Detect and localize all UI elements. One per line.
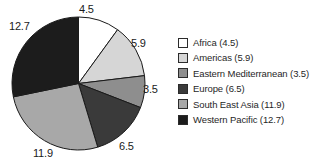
data-label-europe: 6.5 — [119, 141, 134, 152]
legend-item-south-east-asia[interactable]: South East Asia (11.9) — [178, 97, 331, 112]
legend-item-eastern-mediterranean[interactable]: Eastern Mediterranean (3.5) — [178, 66, 331, 81]
legend-label-south-east-asia: South East Asia (11.9) — [193, 100, 285, 110]
pie-slice-group — [12, 17, 145, 150]
legend-item-americas[interactable]: Americas (5.9) — [178, 50, 331, 65]
legend-swatch-americas — [178, 53, 188, 63]
legend-label-western-pacific: Western Pacific (12.7) — [193, 115, 284, 125]
data-label-eastern-mediterranean: 3.5 — [143, 84, 158, 95]
legend-swatch-africa — [178, 38, 188, 48]
legend-swatch-europe — [178, 84, 188, 94]
legend-label-europe: Europe (6.5) — [193, 84, 245, 94]
data-label-south-east-asia: 11.9 — [33, 148, 53, 159]
legend-item-africa[interactable]: Africa (4.5) — [178, 35, 331, 50]
legend: Africa (4.5) Americas (5.9) Eastern Medi… — [178, 35, 331, 127]
legend-swatch-eastern-mediterranean — [178, 68, 188, 78]
legend-swatch-western-pacific — [178, 115, 188, 125]
legend-label-americas: Americas (5.9) — [193, 53, 253, 63]
pie-chart-figure: 4.5 5.9 3.5 6.5 11.9 12.7 Africa (4.5) A… — [0, 0, 331, 166]
data-label-africa: 4.5 — [79, 4, 94, 15]
legend-item-europe[interactable]: Europe (6.5) — [178, 81, 331, 96]
data-label-western-pacific: 12.7 — [9, 21, 30, 32]
legend-label-africa: Africa (4.5) — [193, 38, 238, 48]
legend-item-western-pacific[interactable]: Western Pacific (12.7) — [178, 112, 331, 127]
legend-label-eastern-mediterranean: Eastern Mediterranean (3.5) — [193, 69, 309, 79]
pie-plot-area: 4.5 5.9 3.5 6.5 11.9 12.7 — [0, 0, 180, 166]
data-label-americas: 5.9 — [131, 38, 146, 49]
legend-swatch-south-east-asia — [178, 99, 188, 109]
